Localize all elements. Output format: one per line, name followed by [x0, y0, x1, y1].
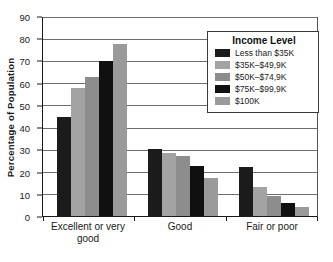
legend-swatch-icon: [215, 97, 230, 105]
bar--35k-49-9k: [162, 153, 176, 216]
bar--35k-49-9k: [253, 187, 267, 216]
bar-less-than-35k: [57, 117, 71, 217]
bar-chart: Percentage of Population 010203040506070…: [0, 0, 333, 262]
bar-less-than-35k: [239, 167, 253, 216]
x-axis-category-labels: Excellent or very goodGoodFair or poor: [42, 221, 318, 245]
y-axis-tick-labels: 0102030405060708090: [0, 17, 34, 217]
legend-entry: $50K–$74,9K: [215, 72, 313, 82]
bar--35k-49-9k: [71, 88, 85, 216]
legend-entry: $75K–$99,9K: [215, 84, 313, 94]
ytick-label-50: 50: [19, 100, 30, 111]
legend-entry: $100K: [215, 96, 313, 106]
x-category-label-1: Excellent or very good: [42, 221, 134, 245]
bar-group-1: [46, 17, 137, 216]
ytick-label-20: 20: [19, 167, 30, 178]
bar--100k: [113, 44, 127, 216]
bar--50k-74-9k: [176, 156, 190, 216]
legend-entry: Less than $35K: [215, 48, 313, 58]
legend-swatch-icon: [215, 49, 230, 57]
legend-entries: Less than $35K$35K–$49,9K$50K–$74,9K$75K…: [215, 48, 313, 106]
ytick-label-90: 90: [19, 12, 30, 23]
ytick-label-10: 10: [19, 189, 30, 200]
bar-less-than-35k: [148, 149, 162, 216]
legend-entry-label: Less than $35K: [235, 48, 294, 58]
legend-entry-label: $50K–$74,9K: [235, 72, 287, 82]
ytick-label-60: 60: [19, 78, 30, 89]
legend-entry-label: $75K–$99,9K: [235, 84, 287, 94]
bar--100k: [295, 207, 309, 216]
ytick-label-70: 70: [19, 56, 30, 67]
bar--50k-74-9k: [85, 77, 99, 216]
legend-entry-label: $100K: [235, 96, 260, 106]
bar--75k-99-9k: [281, 203, 295, 216]
ytick-label-80: 80: [19, 34, 30, 45]
bar--100k: [204, 178, 218, 216]
legend-entry-label: $35K–$49,9K: [235, 60, 287, 70]
legend-swatch-icon: [215, 73, 230, 81]
bar--50k-74-9k: [267, 196, 281, 216]
legend-title: Income Level: [215, 35, 313, 46]
ytick-label-40: 40: [19, 123, 30, 134]
bar--75k-99-9k: [190, 166, 204, 216]
legend-swatch-icon: [215, 61, 230, 69]
legend-swatch-icon: [215, 85, 230, 93]
ytick-label-30: 30: [19, 145, 30, 156]
bar--75k-99-9k: [99, 61, 113, 216]
y-axis-tick-marks: [34, 17, 42, 217]
ytick-label-0: 0: [25, 212, 30, 223]
x-category-label-2: Good: [134, 221, 226, 245]
x-category-label-3: Fair or poor: [226, 221, 318, 245]
legend: Income Level Less than $35K$35K–$49,9K$5…: [207, 31, 319, 113]
legend-entry: $35K–$49,9K: [215, 60, 313, 70]
